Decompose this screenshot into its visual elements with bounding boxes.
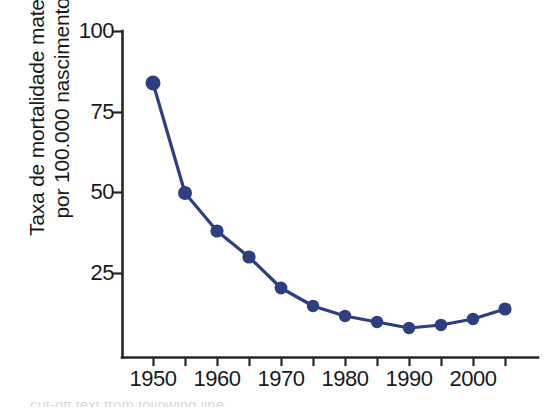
data-point-1950 [146, 76, 161, 91]
data-line-maternal-mortality [153, 83, 505, 328]
x-axis-tick-labels: 1950 1960 1970 1980 1990 2000 [0, 366, 552, 398]
data-point-1970 [275, 282, 288, 295]
x-tick-label-1970: 1970 [258, 366, 305, 392]
data-point-1980 [339, 310, 351, 322]
maternal-mortality-line-chart: Taxa de mortalidade materna por 100.000 … [0, 0, 552, 408]
data-point-1955 [178, 186, 192, 200]
data-point-1960 [210, 224, 223, 237]
plot-area [0, 0, 552, 408]
data-point-1965 [242, 250, 255, 263]
y-axis-ticks [113, 32, 122, 274]
data-point-2005 [498, 302, 511, 315]
data-markers [146, 76, 512, 335]
x-tick-label-1950: 1950 [130, 366, 177, 392]
data-point-1995 [435, 319, 447, 331]
x-tick-label-1960: 1960 [194, 366, 241, 392]
data-point-1975 [307, 300, 319, 312]
data-point-1990 [403, 322, 415, 334]
x-tick-label-1990: 1990 [386, 366, 433, 392]
data-point-1985 [371, 316, 383, 328]
page-bottom-text-sliver: cut-off text from following line [30, 402, 500, 407]
x-axis-ticks [154, 358, 506, 366]
x-tick-label-2000: 2000 [450, 366, 497, 392]
data-point-2000 [467, 313, 479, 325]
x-tick-label-1980: 1980 [322, 366, 369, 392]
